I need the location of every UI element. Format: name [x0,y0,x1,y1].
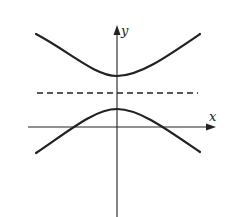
y-axis-label: y [120,23,129,38]
hyperbola-diagram: x y [0,0,232,217]
upper-branch-curve [36,34,200,76]
y-axis-arrow-icon [114,25,121,35]
lower-branch-curve [36,109,200,153]
y-axis [114,25,121,217]
x-axis-arrow-icon [206,124,216,131]
x-axis-label: x [209,109,217,124]
x-axis [28,124,216,131]
